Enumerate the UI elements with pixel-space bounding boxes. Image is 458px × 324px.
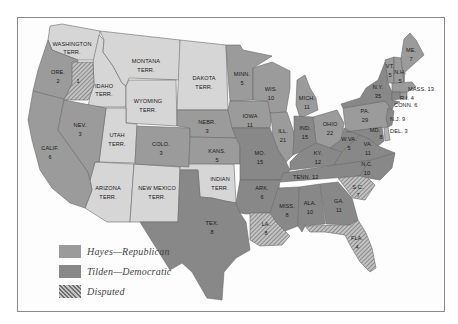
tilden-swatch — [59, 265, 81, 278]
svg-text:3: 3 — [205, 128, 208, 134]
svg-text:DAKOTA: DAKOTA — [192, 75, 215, 81]
svg-text:7: 7 — [409, 56, 412, 62]
svg-text:OHIO: OHIO — [323, 121, 338, 127]
svg-text:MINN.: MINN. — [234, 71, 251, 77]
svg-text:7: 7 — [356, 192, 359, 198]
svg-text:5: 5 — [398, 78, 401, 84]
svg-text:3: 3 — [159, 150, 162, 156]
svg-text:NEW MEXICO: NEW MEXICO — [138, 185, 176, 191]
svg-text:N.C.: N.C. — [361, 161, 373, 167]
svg-text:R.I. 4: R.I. 4 — [400, 95, 414, 101]
svg-text:NEV.: NEV. — [74, 122, 87, 128]
svg-text:11: 11 — [336, 207, 342, 213]
svg-text:ILL.: ILL. — [278, 128, 288, 134]
svg-text:MONTANA: MONTANA — [132, 58, 160, 64]
svg-text:MASS. 13: MASS. 13 — [408, 86, 434, 92]
svg-text:35: 35 — [375, 93, 381, 99]
region-connecticut — [392, 92, 400, 100]
svg-text:21: 21 — [280, 137, 286, 143]
svg-text:WASHINGTON: WASHINGTON — [52, 41, 91, 47]
legend-label: Hayes—Republican — [87, 246, 170, 257]
svg-text:TERR.: TERR. — [148, 194, 166, 200]
svg-text:TERR.: TERR. — [95, 91, 113, 97]
map-legend: Hayes—Republican Tilden—Democratic Dispu… — [59, 241, 172, 301]
svg-text:5: 5 — [240, 80, 243, 86]
svg-text:8: 8 — [379, 134, 382, 140]
svg-text:KANS.: KANS. — [208, 148, 226, 154]
svg-text:10: 10 — [268, 95, 274, 101]
svg-text:8: 8 — [264, 230, 267, 236]
svg-text:TERR.: TERR. — [139, 107, 157, 113]
svg-text:8: 8 — [285, 212, 288, 218]
svg-text:5: 5 — [347, 145, 350, 151]
svg-text:LA.: LA. — [262, 221, 271, 227]
region-florida — [305, 220, 376, 272]
svg-text:29: 29 — [362, 117, 368, 123]
legend-label: Tilden—Democratic — [87, 266, 172, 277]
svg-text:MD.: MD. — [370, 127, 381, 133]
svg-text:TERR.: TERR. — [99, 194, 117, 200]
svg-text:11: 11 — [247, 122, 253, 128]
svg-text:TEX.: TEX. — [206, 220, 219, 226]
svg-text:ORE.: ORE. — [51, 69, 65, 75]
legend-item-disputed: Disputed — [59, 281, 172, 301]
disputed-swatch — [59, 285, 81, 298]
svg-text:VA.: VA. — [364, 141, 373, 147]
svg-text:IND.: IND. — [299, 125, 311, 131]
svg-text:5: 5 — [388, 72, 391, 78]
svg-text:CONN. 6: CONN. 6 — [394, 102, 417, 108]
svg-text:10: 10 — [307, 209, 313, 215]
svg-text:2: 2 — [56, 78, 59, 84]
svg-text:W.VA.: W.VA. — [341, 136, 357, 142]
svg-text:4: 4 — [355, 244, 358, 250]
svg-text:10: 10 — [364, 170, 370, 176]
legend-item-tilden: Tilden—Democratic — [59, 261, 172, 281]
svg-text:IOWA: IOWA — [242, 113, 257, 119]
svg-text:N.J. 9: N.J. 9 — [390, 116, 405, 122]
svg-text:IDAHO: IDAHO — [95, 83, 114, 89]
svg-text:3: 3 — [78, 131, 81, 137]
svg-text:TERR.: TERR. — [195, 84, 213, 90]
svg-text:KY.: KY. — [314, 150, 323, 156]
svg-text:DEL. 3: DEL. 3 — [390, 128, 408, 134]
svg-text:6: 6 — [260, 194, 263, 200]
svg-text:TERR.: TERR. — [137, 67, 155, 73]
svg-text:MICH.: MICH. — [299, 95, 316, 101]
svg-text:TENN. 12: TENN. 12 — [293, 174, 318, 180]
hayes-swatch — [59, 245, 81, 258]
svg-text:ARK.: ARK. — [255, 185, 269, 191]
legend-item-hayes: Hayes—Republican — [59, 241, 172, 261]
svg-text:WIS.: WIS. — [265, 86, 278, 92]
svg-text:N.Y.: N.Y. — [373, 84, 384, 90]
svg-text:GA.: GA. — [334, 198, 344, 204]
svg-text:15: 15 — [257, 159, 263, 165]
svg-text:TERR.: TERR. — [108, 141, 126, 147]
svg-text:NEBR.: NEBR. — [198, 119, 216, 125]
legend-label: Disputed — [87, 286, 125, 297]
svg-text:N.H.: N.H. — [394, 69, 406, 75]
svg-text:ARIZONA: ARIZONA — [95, 185, 121, 191]
region-new-mexico — [130, 164, 180, 222]
svg-text:TERR.: TERR. — [63, 49, 81, 55]
svg-text:ME.: ME. — [406, 47, 417, 53]
svg-text:8: 8 — [210, 229, 213, 235]
svg-text:UTAH: UTAH — [109, 132, 124, 138]
svg-text:MO.: MO. — [255, 150, 266, 156]
svg-text:INDIAN: INDIAN — [210, 176, 230, 182]
svg-text:6: 6 — [48, 154, 51, 160]
svg-text:5: 5 — [215, 157, 218, 163]
svg-text:PA.: PA. — [361, 108, 370, 114]
svg-text:COLO.: COLO. — [152, 141, 170, 147]
svg-text:12: 12 — [315, 159, 321, 165]
svg-text:FLA.: FLA. — [351, 235, 364, 241]
svg-text:11: 11 — [304, 104, 310, 110]
svg-text:15: 15 — [302, 134, 308, 140]
svg-text:S.C.: S.C. — [352, 184, 364, 190]
svg-text:WYOMING: WYOMING — [134, 98, 163, 104]
svg-text:1: 1 — [76, 78, 79, 84]
svg-text:11: 11 — [365, 150, 371, 156]
svg-text:22: 22 — [327, 130, 333, 136]
svg-text:CALIF.: CALIF. — [41, 145, 59, 151]
svg-text:TERR.: TERR. — [211, 185, 229, 191]
svg-text:MISS.: MISS. — [279, 203, 295, 209]
